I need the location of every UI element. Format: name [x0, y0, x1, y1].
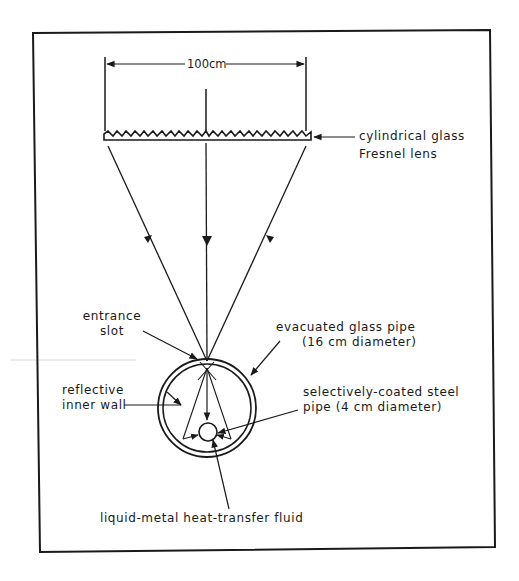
reflective-wall-label-line1: reflective	[60, 383, 126, 397]
steel-pipe-label-line2: pipe (4 cm diameter)	[303, 400, 442, 414]
steel-pipe-label-line1: selectively-coated steel	[303, 385, 459, 399]
reflective-wall-label-line2: inner wall	[62, 398, 127, 412]
entrance-slot-label-line1: entrance	[82, 309, 142, 323]
entrance-slot-label-line2: slot	[82, 324, 142, 338]
dimension-label: 100cm	[187, 57, 226, 71]
steel-pipe	[199, 423, 217, 441]
glass-pipe-label-line1: evacuated glass pipe	[276, 320, 416, 334]
glass-pipe-label-line2: (16 cm diameter)	[302, 335, 417, 349]
label-pointers	[124, 331, 298, 509]
internal-rays	[183, 362, 231, 439]
fluid-label: liquid-metal heat-transfer fluid	[100, 511, 303, 525]
figure-frame	[33, 30, 495, 552]
lens-label-line1: cylindrical glass	[359, 129, 465, 143]
lens-label-line2: Fresnel lens	[359, 147, 437, 161]
diagram-canvas	[0, 0, 519, 581]
fresnel-lens	[104, 131, 311, 140]
